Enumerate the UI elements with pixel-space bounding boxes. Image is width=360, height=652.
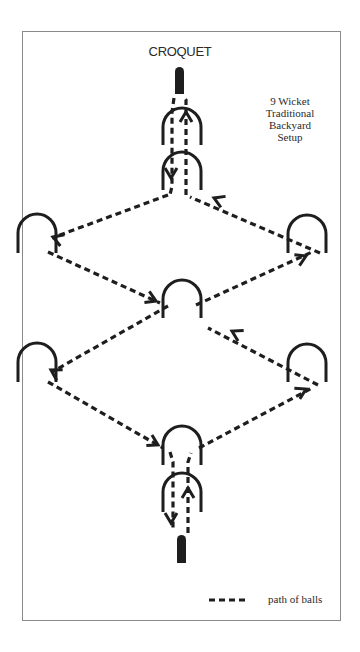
wicket-1-icon: [163, 108, 201, 145]
arrow-back-to-center-icon: [229, 326, 243, 341]
path-center-to-right-upper: [196, 252, 312, 305]
path-left-lower-to-bottom: [48, 382, 163, 448]
wicket-8-icon: [163, 426, 201, 465]
wicket-5-center-icon: [163, 280, 201, 318]
legend-label: path of balls: [268, 593, 322, 605]
path-left-upper-to-center: [48, 252, 160, 303]
path-center-to-left-lower: [52, 306, 168, 372]
path-to-left-upper: [52, 195, 168, 238]
croquet-layout: [0, 0, 360, 652]
path-bottom-to-right-lower: [199, 388, 312, 448]
wicket-3-left-upper-icon: [18, 214, 56, 253]
path-right-upper-to-top: [190, 197, 320, 253]
arrow-back-to-top-icon: [212, 192, 226, 207]
wicket-2-icon: [163, 152, 201, 190]
wicket-9-icon: [163, 473, 201, 512]
wicket-7-right-lower-icon: [288, 344, 326, 382]
wicket-6-left-lower-icon: [18, 343, 56, 382]
top-stake-base: [175, 81, 184, 95]
bottom-stake-base: [177, 549, 186, 563]
arrow-down-bottom-icon: [165, 513, 177, 523]
path-right-lower-to-center: [208, 328, 318, 385]
